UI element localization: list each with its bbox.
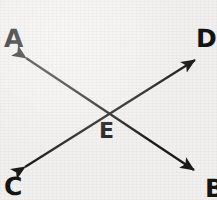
vertex-label-a: A (4, 26, 23, 51)
arrow-lines-svg (0, 0, 217, 200)
vertex-label-c: C (4, 174, 22, 199)
intersection-label-e: E (99, 120, 114, 142)
geometry-figure: A D C B E (0, 0, 217, 200)
segment-c-d (25, 60, 195, 167)
vertex-label-d: D (196, 26, 217, 51)
vertex-label-b: B (205, 176, 217, 200)
